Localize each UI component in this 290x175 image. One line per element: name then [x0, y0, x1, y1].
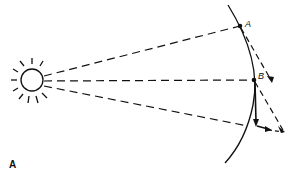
label-a: A: [244, 19, 251, 29]
ray-to-a: [44, 26, 240, 76]
point-b-dot: [252, 78, 257, 83]
sun-icon: [11, 58, 47, 103]
ray-to-b: [44, 80, 254, 81]
orbit-diagram: A B A: [0, 0, 290, 175]
resultant-b-dashed: [255, 82, 283, 130]
point-a-dot: [238, 24, 243, 29]
sun-rays-dashed: [44, 26, 254, 126]
corner-mark: A: [9, 159, 16, 170]
arrowhead-a: [267, 76, 274, 83]
arrowhead-right: [265, 126, 272, 132]
arrowheads: [253, 76, 285, 133]
label-b: B: [258, 71, 264, 81]
ray-to-lower: [44, 86, 248, 126]
fall-arrow-b: [255, 82, 256, 122]
tangent-a-dashed: [241, 28, 271, 80]
